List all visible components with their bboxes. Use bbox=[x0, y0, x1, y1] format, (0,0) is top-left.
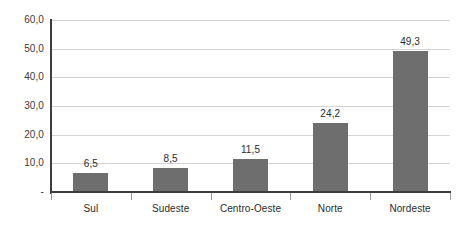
gridline bbox=[51, 77, 450, 78]
x-axis-category-label: Nordeste bbox=[360, 203, 460, 214]
x-axis-tick bbox=[131, 193, 132, 200]
x-axis-tick bbox=[51, 193, 52, 200]
y-axis-tick-label: 20,0 bbox=[0, 129, 44, 140]
y-axis-tick-label: 10,0 bbox=[0, 157, 44, 168]
bar bbox=[153, 168, 188, 192]
bar bbox=[233, 159, 268, 192]
gridline bbox=[51, 106, 450, 107]
gridline bbox=[51, 20, 450, 21]
bar bbox=[393, 51, 428, 192]
x-axis-tick bbox=[290, 193, 291, 200]
bar-value-label: 6,5 bbox=[51, 158, 131, 169]
x-axis-tick bbox=[450, 193, 451, 200]
gridline bbox=[51, 49, 450, 50]
x-axis-tick bbox=[370, 193, 371, 200]
y-axis-tick-label: - bbox=[0, 186, 44, 197]
gridline bbox=[51, 135, 450, 136]
bar-value-label: 8,5 bbox=[131, 153, 211, 164]
chart-title-cropped bbox=[0, 0, 463, 3]
x-axis-line bbox=[51, 191, 451, 193]
x-axis-tick bbox=[211, 193, 212, 200]
bar-chart-screenshot: 60,050,040,030,020,010,0- SulSudesteCent… bbox=[0, 0, 463, 235]
y-axis-tick-label: 60,0 bbox=[0, 14, 44, 25]
bar bbox=[313, 123, 348, 192]
y-axis-tick-label: 40,0 bbox=[0, 71, 44, 82]
y-axis-tick-label: 50,0 bbox=[0, 43, 44, 54]
bar-value-label: 49,3 bbox=[370, 36, 450, 47]
bar bbox=[73, 173, 108, 192]
bar-value-label: 24,2 bbox=[290, 108, 370, 119]
bar-value-label: 11,5 bbox=[211, 144, 291, 155]
y-axis-tick-label: 30,0 bbox=[0, 100, 44, 111]
